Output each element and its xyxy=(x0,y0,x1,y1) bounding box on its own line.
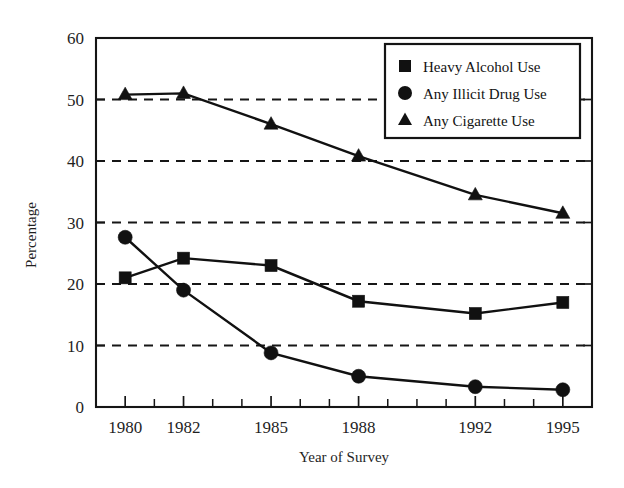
y-tick-label-10: 10 xyxy=(67,337,84,356)
data-point-2-1982 xyxy=(177,86,191,98)
y-tick-label-60: 60 xyxy=(67,29,84,48)
y-axis-tick-labels: 0102030405060 xyxy=(67,29,84,417)
legend-label-2: Any Cigarette Use xyxy=(423,113,535,129)
y-axis-title: Percentage xyxy=(23,202,39,268)
legend-marker-square xyxy=(399,60,411,72)
x-axis-ticks xyxy=(125,396,563,407)
x-axis-title: Year of Survey xyxy=(299,449,390,465)
legend-label-0: Heavy Alcohol Use xyxy=(423,59,541,75)
x-tick-label-1982: 1982 xyxy=(167,418,201,437)
data-point-0-1980 xyxy=(119,272,131,284)
y-tick-label-40: 40 xyxy=(67,152,84,171)
data-point-1-1980 xyxy=(118,230,132,244)
data-point-1-1992 xyxy=(468,380,482,394)
line-chart: 0102030405060 198019821985198819921995 P… xyxy=(0,0,624,488)
data-point-0-1982 xyxy=(178,252,190,264)
x-axis-tick-labels: 198019821985198819921995 xyxy=(108,418,580,437)
legend-label-1: Any Illicit Drug Use xyxy=(423,86,547,102)
y-tick-label-0: 0 xyxy=(76,398,85,417)
data-point-1-1982 xyxy=(177,283,191,297)
x-tick-label-1995: 1995 xyxy=(546,418,580,437)
chart-legend: Heavy Alcohol UseAny Illicit Drug UseAny… xyxy=(385,44,580,138)
data-point-1-1985 xyxy=(264,346,278,360)
data-point-1-1995 xyxy=(556,383,570,397)
data-point-0-1995 xyxy=(557,296,569,308)
data-point-0-1988 xyxy=(353,295,365,307)
series-line-1 xyxy=(125,237,563,390)
data-point-0-1985 xyxy=(265,260,277,272)
x-tick-label-1980: 1980 xyxy=(108,418,142,437)
series-line-0 xyxy=(125,258,563,313)
y-tick-label-50: 50 xyxy=(67,91,84,110)
y-tick-label-30: 30 xyxy=(67,214,84,233)
x-tick-label-1985: 1985 xyxy=(254,418,288,437)
data-point-0-1992 xyxy=(469,308,481,320)
x-tick-label-1992: 1992 xyxy=(458,418,492,437)
x-tick-label-1988: 1988 xyxy=(342,418,376,437)
data-point-1-1988 xyxy=(352,369,366,383)
y-tick-label-20: 20 xyxy=(67,275,84,294)
chart-container: 0102030405060 198019821985198819921995 P… xyxy=(0,0,624,488)
legend-marker-circle xyxy=(398,86,412,100)
